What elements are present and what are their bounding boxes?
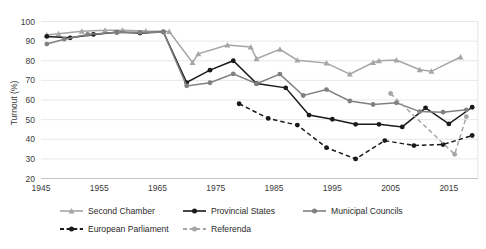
y-tick-label-100: 100	[21, 17, 35, 27]
x-tick-label-1995: 1995	[323, 183, 342, 193]
y-tick-label-80: 80	[26, 56, 36, 66]
data-point-marker	[277, 72, 282, 77]
legend-label: Referenda	[211, 224, 251, 234]
data-point-marker	[347, 99, 352, 104]
data-point-marker	[192, 227, 197, 232]
y-tick-label-30: 30	[26, 154, 36, 164]
turnout-chart: 2030405060708090100 19451955196519751985…	[0, 0, 486, 249]
data-point-marker	[44, 34, 49, 39]
data-point-marker	[417, 109, 422, 114]
y-axis-title: Turnout (%)	[9, 81, 19, 126]
data-point-marker	[161, 30, 166, 35]
data-point-marker	[388, 91, 393, 96]
data-point-marker	[208, 68, 213, 73]
data-point-marker	[114, 30, 119, 35]
data-point-marker	[231, 71, 236, 76]
data-point-marker	[446, 122, 451, 127]
data-point-marker	[237, 101, 242, 106]
data-point-marker	[470, 105, 475, 110]
data-point-marker	[377, 122, 382, 127]
y-tick-label-50: 50	[26, 115, 36, 125]
data-point-marker	[464, 107, 469, 112]
data-point-marker	[324, 87, 329, 92]
data-point-marker	[324, 145, 329, 150]
data-point-marker	[412, 143, 417, 148]
data-point-marker	[464, 114, 469, 119]
data-point-marker	[353, 156, 358, 161]
data-point-marker	[470, 133, 475, 138]
data-point-marker	[307, 113, 312, 118]
data-point-marker	[254, 81, 259, 86]
data-point-marker	[330, 117, 335, 122]
data-point-marker	[400, 124, 405, 129]
legend-label: European Parliament	[88, 224, 169, 234]
data-point-marker	[382, 138, 387, 143]
data-point-marker	[138, 30, 143, 35]
data-point-marker	[266, 116, 271, 121]
x-tick-label-1965: 1965	[148, 183, 167, 193]
data-point-marker	[441, 110, 446, 115]
data-point-marker	[295, 123, 300, 128]
data-point-marker	[208, 80, 213, 85]
data-point-marker	[441, 142, 446, 147]
y-tick-label-90: 90	[26, 36, 36, 46]
legend-label: Second Chamber	[88, 206, 155, 216]
legend-label: Provincial States	[211, 206, 275, 216]
data-point-marker	[69, 227, 74, 232]
x-tick-label-1945: 1945	[32, 183, 51, 193]
data-point-marker	[44, 42, 49, 47]
data-point-marker	[371, 102, 376, 107]
data-point-marker	[283, 85, 288, 90]
y-tick-label-70: 70	[26, 75, 36, 85]
y-tick-label-40: 40	[26, 134, 36, 144]
data-point-marker	[192, 209, 197, 214]
y-tick-label-60: 60	[26, 95, 36, 105]
x-tick-label-2015: 2015	[439, 183, 458, 193]
data-point-marker	[452, 152, 457, 157]
x-tick-label-1985: 1985	[265, 183, 284, 193]
legend-label: Municipal Councils	[331, 206, 403, 216]
data-point-marker	[301, 93, 306, 98]
x-tick-label-2005: 2005	[381, 183, 400, 193]
chart-canvas: 2030405060708090100 19451955196519751985…	[0, 0, 486, 249]
data-point-marker	[312, 209, 317, 214]
data-point-marker	[184, 83, 189, 88]
data-point-marker	[231, 58, 236, 63]
data-point-marker	[353, 122, 358, 127]
data-point-marker	[85, 32, 90, 37]
data-point-marker	[423, 105, 428, 110]
x-tick-label-1955: 1955	[90, 183, 109, 193]
data-point-marker	[62, 37, 67, 42]
x-tick-label-1975: 1975	[206, 183, 225, 193]
